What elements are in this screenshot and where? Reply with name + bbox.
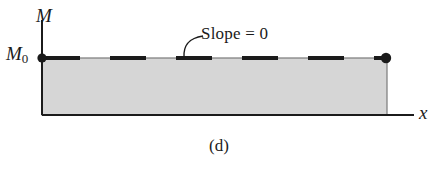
moment-value-subscript: 0: [22, 51, 29, 66]
horizontal-axis-label: x: [419, 103, 427, 122]
moment-area-fill: [42, 58, 387, 115]
bending-moment-diagram-figure: M x M0 Slope = 0 (d): [0, 0, 438, 172]
moment-value-label: M0: [6, 44, 28, 63]
slope-annotation-label: Slope = 0: [201, 25, 268, 42]
left-endpoint-marker: [37, 53, 46, 62]
right-endpoint-marker: [381, 53, 391, 63]
figure-caption: (d): [0, 137, 438, 154]
vertical-axis-label: M: [36, 6, 52, 25]
moment-value-symbol: M: [6, 43, 22, 64]
